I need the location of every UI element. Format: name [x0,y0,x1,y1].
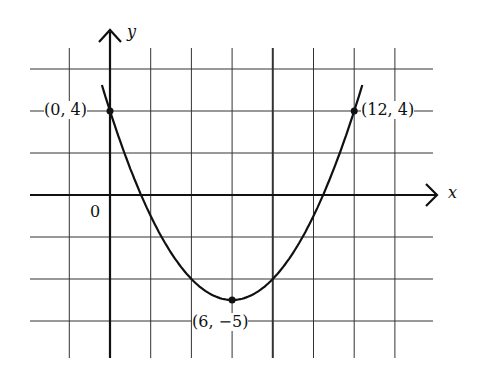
y-axis-label: y [127,22,136,41]
origin-label: 0 [90,203,100,221]
point-label-12-4: (12, 4) [361,101,414,119]
data-point [107,108,114,115]
point-label-0-4: (0, 4) [44,101,87,119]
data-point [351,108,358,115]
point-label-6-neg5: (6, −5) [192,313,248,331]
data-point [229,297,236,304]
x-axis-label: x [448,183,457,202]
